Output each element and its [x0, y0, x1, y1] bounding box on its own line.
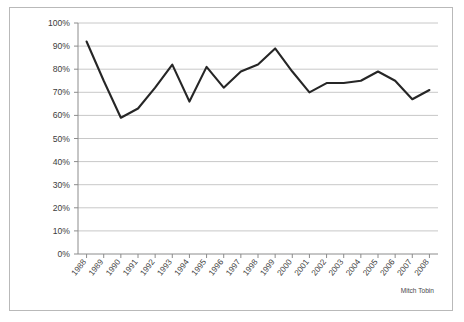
x-tick-label: 2004 — [344, 257, 363, 277]
y-tick-labels-group: 0%10%20%30%40%50%60%70%80%90%100% — [48, 18, 70, 259]
x-tick-marks-group — [87, 254, 430, 258]
y-tick-label: 90% — [53, 41, 71, 51]
x-tick-label: 1995 — [190, 257, 209, 277]
x-tick-label: 2008 — [413, 257, 432, 277]
screenshot-root: 0%10%20%30%40%50%60%70%80%90%100% 198819… — [0, 0, 464, 322]
y-tick-label: 20% — [53, 203, 71, 213]
x-tick-label: 2006 — [378, 257, 397, 277]
gridlines-group — [78, 23, 438, 231]
x-tick-label: 1996 — [207, 257, 226, 277]
x-tick-label: 1999 — [258, 257, 277, 277]
x-tick-label: 2001 — [293, 257, 312, 277]
x-tick-label: 1998 — [241, 257, 260, 277]
y-tick-label: 70% — [53, 87, 71, 97]
x-tick-label: 1997 — [224, 257, 243, 277]
x-tick-label: 2000 — [276, 257, 295, 277]
x-tick-label: 2005 — [361, 257, 380, 277]
x-tick-label: 2007 — [396, 257, 415, 277]
x-tick-label: 1988 — [70, 257, 89, 277]
data-series-line — [87, 41, 430, 117]
y-tick-label: 40% — [53, 157, 71, 167]
y-tick-label: 30% — [53, 180, 71, 190]
y-tick-label: 50% — [53, 134, 71, 144]
y-tick-label: 0% — [58, 249, 71, 259]
x-tick-label: 2003 — [327, 257, 346, 277]
x-tick-label: 1991 — [121, 257, 140, 277]
chart-frame: 0%10%20%30%40%50%60%70%80%90%100% 198819… — [9, 7, 453, 311]
x-tick-label: 1993 — [156, 257, 175, 277]
x-tick-label: 1994 — [173, 257, 192, 277]
credit-label: Mitch Tobin — [401, 287, 435, 294]
y-tick-label: 10% — [53, 226, 71, 236]
y-tick-label: 60% — [53, 110, 71, 120]
x-tick-labels-group: 1988198919901991199219931994199519961997… — [70, 257, 431, 277]
y-tick-marks-group — [74, 23, 78, 254]
x-tick-label: 1989 — [87, 257, 106, 277]
x-tick-label: 1990 — [104, 257, 123, 277]
y-tick-label: 80% — [53, 64, 71, 74]
x-tick-label: 2002 — [310, 257, 329, 277]
y-tick-label: 100% — [48, 18, 70, 28]
x-tick-label: 1992 — [138, 257, 157, 277]
line-chart: 0%10%20%30%40%50%60%70%80%90%100% 198819… — [10, 8, 452, 310]
